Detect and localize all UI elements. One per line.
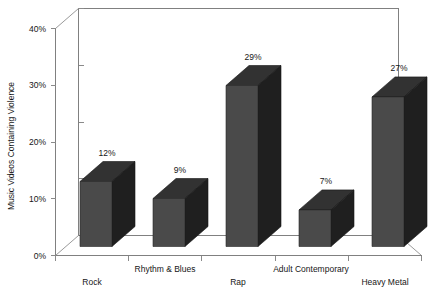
- bar-rhythm-and-blues: 9%: [153, 165, 208, 247]
- bar-ac-front: [299, 210, 331, 247]
- y-tick-labels: 40% 30% 20% 10% 0%: [29, 24, 46, 261]
- bar-rap-front: [226, 86, 258, 247]
- depth-edge-top-left: [56, 9, 79, 29]
- y-axis-title: Music Videos Containing Violence: [6, 82, 16, 210]
- bar-hm-side: [404, 77, 427, 247]
- y-tick-label-40: 40%: [29, 24, 46, 34]
- bar-rap: 29%: [226, 52, 281, 247]
- y-tick-label-20: 20%: [29, 137, 46, 147]
- bar-chart: 40% 30% 20% 10% 0% Music Videos Containi…: [0, 0, 428, 295]
- bar-rock-front: [80, 182, 112, 247]
- y-tick-label-0: 0%: [34, 251, 47, 261]
- x-label-rap: Rap: [230, 277, 246, 287]
- bar-rock: 12%: [80, 148, 135, 247]
- bar-heavy-metal: 27%: [372, 63, 427, 247]
- bar-rap-side: [258, 66, 281, 247]
- bar-value-adult-contemporary: 7%: [320, 176, 333, 186]
- x-label-adult-contemporary: Adult Contemporary: [273, 264, 349, 274]
- bar-rnb-front: [153, 199, 185, 247]
- x-label-rock: Rock: [82, 277, 102, 287]
- bar-value-rhythm-and-blues: 9%: [174, 165, 187, 175]
- bar-hm-front: [372, 97, 404, 247]
- bar-value-heavy-metal: 27%: [390, 63, 407, 73]
- y-tick-label-10: 10%: [29, 194, 46, 204]
- x-axis-ticks: [56, 256, 422, 261]
- chart-canvas: 40% 30% 20% 10% 0% Music Videos Containi…: [0, 0, 428, 295]
- x-label-rhythm-and-blues: Rhythm & Blues: [135, 264, 196, 274]
- x-label-heavy-metal: Heavy Metal: [361, 277, 408, 287]
- x-axis-labels: Rock Rhythm & Blues Rap Adult Contempora…: [82, 264, 408, 287]
- depth-edge-bottom-left: [56, 236, 79, 256]
- bar-value-rock: 12%: [98, 148, 115, 158]
- y-tick-label-30: 30%: [29, 80, 46, 90]
- bar-value-rap: 29%: [244, 52, 261, 62]
